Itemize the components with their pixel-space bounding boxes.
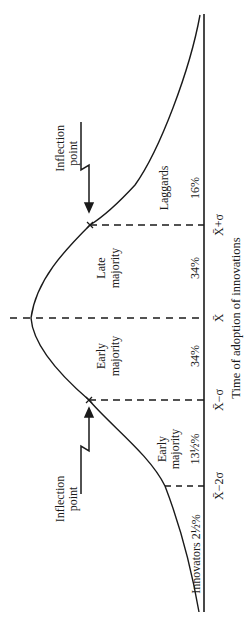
segment-late-majority-line2: majority: [108, 248, 122, 289]
inflection-label-upper-line1: Inflection: [53, 125, 67, 172]
segment-early-adopters-share: 13½%: [188, 434, 202, 465]
lightning-arrow-lower-icon: [81, 408, 93, 494]
segment-laggards-share: 16%: [188, 177, 202, 199]
segment-early-majority-share: 34%: [188, 345, 202, 367]
inflection-label-lower-line1: Inflection: [53, 476, 67, 523]
inflection-label-upper-line2: point: [66, 140, 80, 165]
diffusion-of-innovations-diagram: Inflection point Inflection point Laggar…: [0, 0, 251, 618]
segment-early-adopters-line1: Early: [155, 436, 169, 462]
segment-early-adopters-line2: majority: [168, 429, 182, 470]
segment-innovators-label: Innovators 2½%: [189, 514, 203, 593]
axis-label: Time of adoption of innovations: [229, 237, 243, 398]
inflection-label-lower-line2: point: [66, 486, 80, 511]
tick-x-minus-sigma: X̄−σ: [212, 389, 226, 411]
tick-x-minus-2sigma: X̄−2σ: [212, 472, 226, 500]
segment-late-majority-line1: Late: [94, 257, 108, 278]
segment-laggards-name: Laggards: [157, 165, 171, 210]
segment-late-majority-share: 34%: [188, 257, 202, 279]
tick-x-plus-sigma: X̄+σ: [212, 214, 226, 236]
tick-x-mean: X̄: [212, 313, 226, 322]
lightning-arrow-upper-icon: [81, 122, 93, 212]
segment-early-majority-line2: majority: [108, 336, 122, 377]
segment-early-majority-line1: Early: [94, 343, 108, 369]
